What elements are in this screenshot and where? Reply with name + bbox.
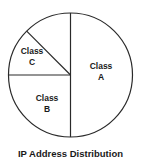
chart-title: IP Address Distribution xyxy=(0,148,141,159)
class-c-line1: Class xyxy=(17,46,47,57)
class-c-line2: C xyxy=(17,57,47,68)
pie-chart xyxy=(0,0,141,145)
class-a-line2: A xyxy=(86,72,116,83)
class-b-line2: B xyxy=(32,104,62,115)
slice-label-class-c: Class C xyxy=(17,46,47,68)
class-a-line1: Class xyxy=(86,61,116,72)
class-b-line1: Class xyxy=(32,93,62,104)
slice-label-class-b: Class B xyxy=(32,93,62,115)
slice-label-class-a: Class A xyxy=(86,61,116,83)
